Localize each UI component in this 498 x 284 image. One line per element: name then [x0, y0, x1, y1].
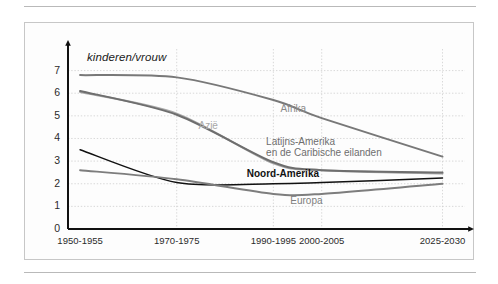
series-label-latijns-amerika: Latijns-Amerikaen de Caribische eilanden: [266, 136, 382, 159]
y-tick-label: 4: [44, 131, 60, 143]
series-line-2: [80, 91, 442, 172]
figure-stage: kinderen/vrouw 01234567 19: [0, 0, 498, 284]
y-tick-label: 2: [44, 177, 60, 189]
y-tick-label: 7: [44, 64, 60, 76]
series-label-noord-amerika: Noord-Amerika: [247, 168, 319, 180]
bottom-divider-rule: [24, 272, 476, 273]
series-label-azi: Azië: [198, 120, 217, 132]
y-tick-label: 0: [44, 222, 60, 234]
y-tick-label: 1: [44, 199, 60, 211]
y-tick-label: 6: [44, 86, 60, 98]
top-divider-rule: [24, 6, 476, 7]
series-label-europa: Europa: [290, 195, 322, 207]
x-tick-label: 1970-1975: [137, 235, 217, 246]
y-tick-label: 5: [44, 109, 60, 121]
y-tick-label: 3: [44, 154, 60, 166]
chart-plot-area: [25, 23, 475, 261]
series-label-afrika: Afrika: [281, 103, 307, 115]
x-tick-label: 1950-1955: [40, 235, 120, 246]
line-chart-svg: [25, 23, 475, 261]
x-tick-label: 2000-2005: [282, 235, 362, 246]
chart-figure-box: kinderen/vrouw 01234567 19: [24, 22, 474, 260]
x-tick-label: 2025-2030: [403, 235, 483, 246]
